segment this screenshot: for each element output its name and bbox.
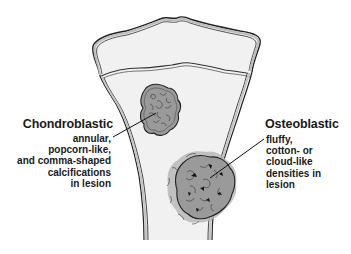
- osteoblastic-title: Osteoblastic: [265, 117, 339, 131]
- osteoblastic-line: cloud-like: [266, 156, 321, 167]
- osteoblastic-description: fluffy, cotton- or cloud-like densities …: [266, 134, 321, 190]
- chondroblastic-line: annular,: [17, 133, 111, 144]
- osteoblastic-line: fluffy,: [266, 134, 321, 145]
- chondroblastic-title: Chondroblastic: [23, 117, 113, 131]
- chondroblastic-line: in lesion: [17, 178, 111, 189]
- osteoblastic-line: densities in: [266, 168, 321, 179]
- osteoblastic-line: lesion: [266, 179, 321, 190]
- chondroblastic-line: popcorn-like,: [17, 144, 111, 155]
- chondroblastic-line: and comma-shaped: [17, 155, 111, 166]
- osteoblastic-line: cotton- or: [266, 145, 321, 156]
- chondroblastic-description: annular, popcorn-like, and comma-shaped …: [17, 133, 111, 189]
- chondroblastic-line: calcifications: [17, 167, 111, 178]
- chondroblastic-lesion: [141, 84, 181, 135]
